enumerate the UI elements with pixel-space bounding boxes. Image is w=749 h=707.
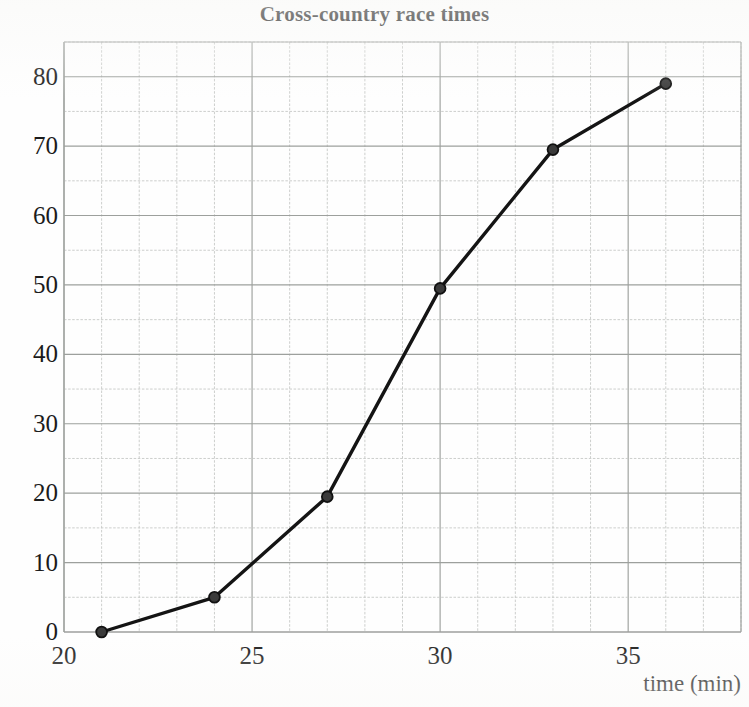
x-axis-tick-label: 20 xyxy=(29,643,99,668)
x-axis-tick-label: 25 xyxy=(217,643,287,668)
y-axis-tick-label: 70 xyxy=(2,133,58,158)
data-series-line xyxy=(64,42,741,632)
y-axis-tick-label: 40 xyxy=(2,341,58,366)
x-axis-title: time (min) xyxy=(643,672,741,696)
y-axis-tick-label: 80 xyxy=(2,64,58,89)
y-axis-tick-label: 30 xyxy=(2,411,58,436)
y-axis-tick-label: 50 xyxy=(2,272,58,297)
plot-area xyxy=(64,42,741,632)
y-axis-tick-label: 0 xyxy=(2,619,58,644)
x-axis-tick-label: 30 xyxy=(405,643,475,668)
data-point-marker xyxy=(96,627,107,638)
data-point-marker xyxy=(322,491,333,502)
chart-title: Cross-country race times xyxy=(0,2,749,27)
data-point-marker xyxy=(548,144,559,155)
y-axis-tick-label: 20 xyxy=(2,480,58,505)
y-axis-tick-label: 10 xyxy=(2,550,58,575)
series-polyline xyxy=(102,84,666,632)
chart-root: Cross-country race times 010203040506070… xyxy=(0,0,749,707)
data-point-marker xyxy=(209,592,220,603)
data-point-marker xyxy=(660,78,671,89)
y-axis-tick-labels: 01020304050607080 xyxy=(0,0,58,707)
x-axis-tick-labels: 20253035 xyxy=(0,643,749,677)
x-axis-tick-label: 35 xyxy=(593,643,663,668)
data-point-marker xyxy=(435,283,446,294)
y-axis-tick-label: 60 xyxy=(2,203,58,228)
